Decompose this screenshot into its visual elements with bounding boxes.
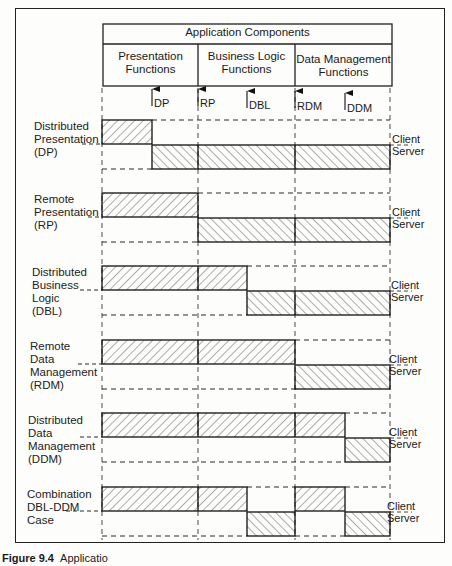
split-label-dp: DP (154, 97, 169, 109)
client-server-labels-dbl: Client Server (391, 279, 423, 303)
header-col-line: Presentation (103, 50, 198, 63)
server-label: Server (392, 145, 424, 157)
server-label: Server (392, 218, 424, 230)
row-label-line: Distributed (28, 414, 95, 427)
row-label-line: Case (27, 514, 92, 527)
row-label-line: Data (28, 427, 95, 440)
split-label-rdm: RDM (297, 100, 322, 112)
row-label-line: (DDM) (28, 453, 95, 466)
row-label-rp: Remote Presentation (RP) (34, 193, 99, 232)
row-rdm-bars (78, 340, 390, 389)
client-label: Client (389, 426, 421, 438)
header-col-business-logic: Business Logic Functions (198, 50, 295, 76)
row-label-line: DBL-DDM (27, 501, 92, 514)
caption-figure-number: Figure 9.4 (2, 552, 54, 564)
row-label-line: Remote (34, 193, 99, 206)
figure-caption: Figure 9.4 Applicatio (2, 552, 108, 564)
client-server-labels-dp: Client Server (392, 133, 424, 157)
client-server-labels-rp: Client Server (392, 206, 424, 230)
row-label-line: Presentation (34, 206, 99, 219)
server-label: Server (387, 512, 419, 524)
split-label-dbl: DBL (249, 99, 270, 111)
row-label-ddm: Distributed Data Management (DDM) (28, 414, 95, 466)
row-label-combo: Combination DBL-DDM Case (27, 488, 92, 527)
header-col-line: Business Logic (198, 50, 295, 63)
row-combo-bars (66, 487, 390, 536)
row-label-line: Remote (30, 340, 97, 353)
header-col-line: Functions (295, 66, 392, 79)
row-dbl-bars (80, 266, 390, 315)
client-label: Client (391, 279, 423, 291)
client-server-labels-combo: Client Server (387, 500, 419, 524)
row-label-line: (DBL) (32, 305, 87, 318)
row-label-line: (RDM) (30, 379, 97, 392)
row-label-line: Presentation (34, 133, 99, 146)
split-label-ddm: DDM (347, 102, 372, 114)
row-label-line: Business (32, 279, 87, 292)
header-col-line: Functions (103, 63, 198, 76)
row-label-line: Data (30, 353, 97, 366)
row-ddm-bars (80, 413, 390, 462)
server-label: Server (389, 365, 421, 377)
server-label: Server (391, 291, 423, 303)
split-label-rp: RP (200, 97, 215, 109)
header-col-line: Functions (198, 63, 295, 76)
row-label-line: Management (28, 440, 95, 453)
row-label-line: (RP) (34, 219, 99, 232)
row-dp-bars (82, 120, 390, 169)
client-label: Client (389, 353, 421, 365)
client-label: Client (392, 133, 424, 145)
client-server-dividers (390, 145, 412, 512)
row-label-line: Combination (27, 488, 92, 501)
header-title: Application Components (103, 26, 392, 38)
header-col-data-management: Data Management Functions (295, 53, 392, 79)
row-label-line: Distributed (32, 266, 87, 279)
header-col-line: Data Management (295, 53, 392, 66)
caption-text: Applicatio (60, 552, 108, 564)
row-label-dp: Distributed Presentation (DP) (34, 120, 99, 159)
row-label-line: Distributed (34, 120, 99, 133)
row-label-line: Management (30, 366, 97, 379)
row-label-line: (DP) (34, 146, 99, 159)
row-label-line: Logic (32, 292, 87, 305)
server-label: Server (389, 438, 421, 450)
client-server-labels-ddm: Client Server (389, 426, 421, 450)
row-label-rdm: Remote Data Management (RDM) (30, 340, 97, 392)
row-label-dbl: Distributed Business Logic (DBL) (32, 266, 87, 318)
header-col-presentation: Presentation Functions (103, 50, 198, 76)
client-server-labels-rdm: Client Server (389, 353, 421, 377)
client-label: Client (387, 500, 419, 512)
client-label: Client (392, 206, 424, 218)
row-rp-bars (88, 193, 390, 242)
